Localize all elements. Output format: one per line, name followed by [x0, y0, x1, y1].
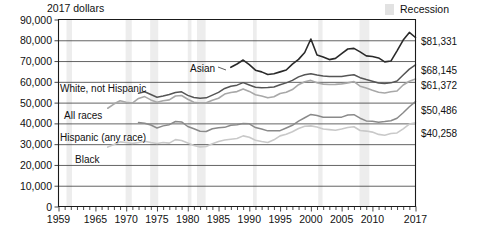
label-leader-lines: [218, 67, 226, 70]
recession-band-5: [253, 20, 257, 207]
y-tick-label-30000: 30,000: [0, 139, 52, 150]
end-label-all-races: $61,372: [421, 81, 457, 91]
series-label-all-races: All races: [64, 111, 102, 121]
series-label-black: Black: [75, 155, 99, 165]
end-label-hispanic: $50,486: [421, 106, 457, 116]
end-label-asian: $81,331: [421, 37, 457, 47]
y-tick-label-10000: 10,000: [0, 181, 52, 192]
y-tick-label-60000: 60,000: [0, 77, 52, 88]
recession-band-7: [359, 20, 369, 207]
recession-bands: [67, 20, 370, 207]
y-tick-label-50000: 50,000: [0, 98, 52, 109]
end-label-white-not-hispanic: $68,145: [421, 66, 457, 76]
end-label-black: $40,258: [421, 129, 457, 139]
y-tick-label-20000: 20,000: [0, 160, 52, 171]
series-label-asian: Asian: [190, 64, 215, 74]
x-tick-label-2017: 2017: [396, 214, 436, 225]
y-tick-label-90000: 90,000: [0, 15, 52, 26]
recession-band-4: [197, 20, 206, 207]
series-line-white-not-hispanic: [139, 65, 416, 98]
recession-band-2: [150, 20, 158, 207]
income-line-chart: 2017 dollars Recession 90,00080,00070,00…: [0, 0, 491, 246]
plot-area: [0, 0, 491, 246]
y-tick-label-40000: 40,000: [0, 118, 52, 129]
recession-band-3: [188, 20, 192, 207]
series-label-hispanic: Hispanic (any race): [60, 133, 146, 143]
recession-band-1: [126, 20, 132, 207]
y-tick-label-70000: 70,000: [0, 56, 52, 67]
asian-label-leader: [218, 67, 226, 70]
series-label-white-not-hispanic: White, not Hispanic: [60, 84, 146, 94]
series-line-hispanic-any-race: [139, 102, 416, 132]
x-tick-label-2010: 2010: [352, 214, 392, 225]
recession-band-6: [318, 20, 322, 207]
y-tick-label-80000: 80,000: [0, 35, 52, 46]
series-line-asian: [231, 32, 416, 74]
y-tick-label-0: 0: [0, 202, 52, 213]
x-tick-label-1959: 1959: [39, 214, 79, 225]
